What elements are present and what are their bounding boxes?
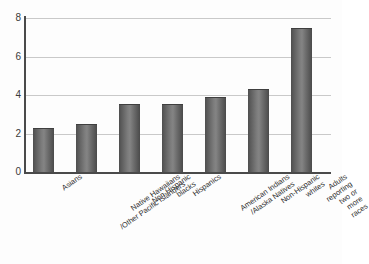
bar-6 (291, 28, 312, 172)
bar-4 (205, 97, 226, 172)
bar-0 (33, 128, 54, 172)
y-tick-label: 4 (3, 90, 21, 100)
y-tick-label: 2 (3, 129, 21, 139)
y-tick-label: 6 (3, 52, 21, 62)
bars-layer (24, 18, 331, 172)
bar-5 (248, 89, 269, 172)
bar-2 (119, 104, 140, 172)
y-tick-label: 8 (3, 13, 21, 23)
bar-1 (76, 124, 97, 172)
y-axis-ticks: 8 6 4 2 0 (0, 18, 21, 172)
x-tick-label-0: Asians (60, 172, 84, 192)
x-tick-label-6: Adults reporting two or more races (319, 172, 369, 226)
x-axis-labels: Asians Native Hawaiians /Other Pacific I… (0, 172, 342, 264)
bar-3 (162, 104, 183, 172)
